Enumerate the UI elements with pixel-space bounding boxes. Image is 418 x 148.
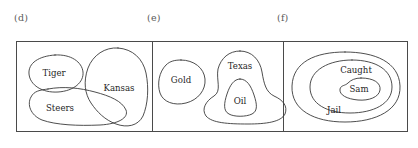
venn-diagram-figure: (d) (e) (f) Tiger Steers Kansas <box>0 0 418 148</box>
set-label-caught: Caught <box>340 65 372 75</box>
set-label-sam: Sam <box>349 84 368 94</box>
set-label-oil: Oil <box>234 96 247 106</box>
set-label-gold: Gold <box>171 75 192 85</box>
set-label-tiger: Tiger <box>42 68 66 78</box>
set-curve-steers <box>29 88 126 126</box>
diagram-canvas: Tiger Steers Kansas Gold Texas Oil Jail <box>0 0 418 148</box>
set-label-jail: Jail <box>326 105 341 115</box>
set-label-kansas: Kansas <box>103 83 134 93</box>
set-label-steers: Steers <box>46 103 74 113</box>
set-label-texas: Texas <box>228 61 253 71</box>
set-curve-jail <box>292 52 400 122</box>
panel-e-shapes: Gold Texas Oil <box>159 51 286 124</box>
panel-d-shapes: Tiger Steers Kansas <box>29 48 148 126</box>
panel-f-shapes: Jail Caught Sam <box>292 52 400 122</box>
